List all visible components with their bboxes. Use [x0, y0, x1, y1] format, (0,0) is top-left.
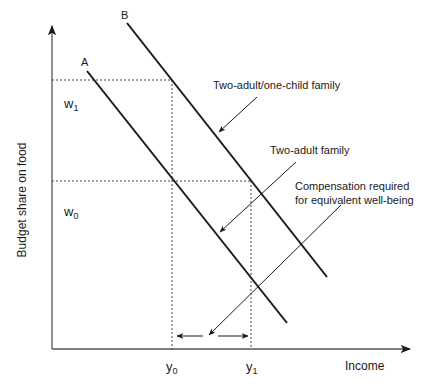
- y-axis-title: Budget share on food: [15, 135, 29, 265]
- curve-b-label: B: [121, 10, 128, 21]
- curve-a: [87, 71, 287, 323]
- x-axis-title: Income: [345, 360, 384, 372]
- annotation-two-adult-one-child: Two-adult/one-child family: [213, 80, 340, 91]
- y1-label: y1: [246, 360, 258, 376]
- y0-label: y0: [166, 360, 178, 376]
- w1-label: w1: [64, 97, 78, 113]
- w0-subscript: 0: [73, 211, 78, 221]
- y1-subscript: 1: [253, 366, 258, 376]
- dotted-guides: [52, 80, 251, 349]
- curve-a-label: A: [81, 57, 88, 68]
- engel-curve-diagram: A B w1 w0 y0 y1 Income Budget share on f…: [0, 0, 425, 387]
- annotation-compensation-line1: Compensation required: [295, 180, 414, 194]
- annotation-compensation: Compensation required for equivalent wel…: [295, 180, 414, 208]
- w0-label: w0: [64, 205, 78, 221]
- w1-subscript: 1: [73, 103, 78, 113]
- w0-base: w: [64, 204, 73, 219]
- y0-subscript: 0: [173, 366, 178, 376]
- annotation-compensation-line2: for equivalent well-being: [295, 194, 414, 208]
- pointer-two-adult-one-child: [219, 97, 257, 132]
- annotation-two-adult: Two-adult family: [270, 145, 349, 156]
- pointer-two-adult: [220, 162, 296, 232]
- w1-base: w: [64, 96, 73, 111]
